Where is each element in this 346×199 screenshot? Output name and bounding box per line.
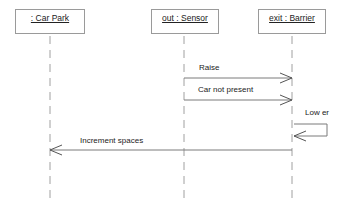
object-car-park: : Car Park bbox=[15, 9, 85, 34]
message-car-not-present-arrow bbox=[184, 95, 292, 105]
object-sensor: out : Sensor bbox=[151, 9, 219, 34]
message-raise-label: Raise bbox=[199, 63, 219, 72]
message-increment-spaces-arrow bbox=[50, 145, 292, 155]
message-lower-self-arrow bbox=[294, 124, 327, 141]
message-car-not-present-label: Car not present bbox=[198, 85, 253, 94]
object-sensor-label: out : Sensor bbox=[152, 13, 218, 23]
object-barrier-label: exit : Barrier bbox=[259, 13, 325, 23]
message-increment-spaces-label: Increment spaces bbox=[80, 136, 143, 145]
object-car-park-label: : Car Park bbox=[16, 13, 84, 23]
object-barrier: exit : Barrier bbox=[258, 9, 326, 34]
message-lower-label: Low er bbox=[305, 108, 329, 117]
message-raise-arrow bbox=[184, 73, 292, 83]
